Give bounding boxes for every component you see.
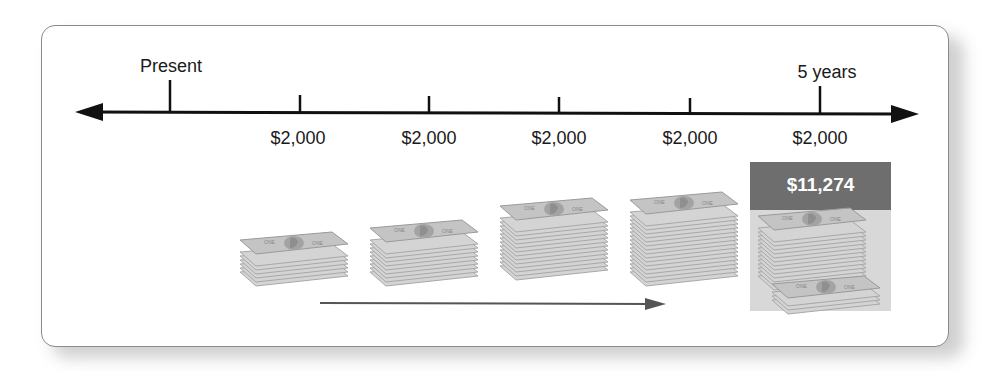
payment-amount: $2,000 xyxy=(792,128,847,149)
money-stack-1 xyxy=(240,232,348,286)
payment-amount: $2,000 xyxy=(662,128,717,149)
money-stack-4 xyxy=(630,192,738,286)
payment-amount: $2,000 xyxy=(401,128,456,149)
start-label: Present xyxy=(140,56,202,77)
growth-arrow-icon xyxy=(645,298,666,310)
growth-arrow-line xyxy=(320,303,650,304)
payment-amount: $2,000 xyxy=(270,128,325,149)
end-label: 5 years xyxy=(797,62,856,83)
money-stack-3 xyxy=(500,198,608,280)
payment-amount: $2,000 xyxy=(531,128,586,149)
money-stack-2 xyxy=(370,220,478,286)
